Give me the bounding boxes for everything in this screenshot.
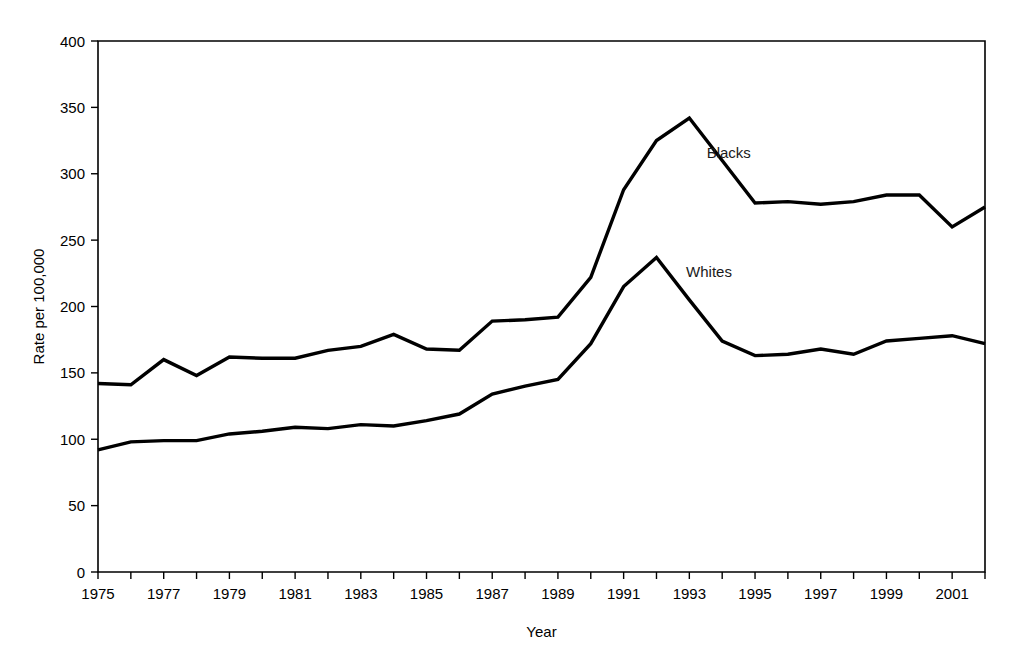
x-axis-ticks: 1975197719791981198319851987198919911993… xyxy=(81,572,985,602)
y-axis-ticks: 050100150200250300350400 xyxy=(60,33,98,581)
series-label-whites: Whites xyxy=(686,263,732,280)
x-tick-label: 1975 xyxy=(81,585,114,602)
y-tick-label: 200 xyxy=(60,298,85,315)
x-tick-label: 1977 xyxy=(147,585,180,602)
y-tick-label: 300 xyxy=(60,165,85,182)
x-tick-label: 1985 xyxy=(410,585,443,602)
y-tick-label: 250 xyxy=(60,232,85,249)
series-annotations: BlacksWhites xyxy=(686,144,751,280)
y-tick-label: 150 xyxy=(60,364,85,381)
series-label-blacks: Blacks xyxy=(707,144,751,161)
y-tick-label: 100 xyxy=(60,431,85,448)
plot-frame xyxy=(98,41,985,572)
axis-frame xyxy=(98,41,985,572)
x-tick-label: 1981 xyxy=(278,585,311,602)
x-tick-label: 1997 xyxy=(804,585,837,602)
x-tick-label: 1983 xyxy=(344,585,377,602)
x-tick-label: 1987 xyxy=(476,585,509,602)
y-tick-label: 50 xyxy=(68,497,85,514)
x-tick-label: 1999 xyxy=(870,585,903,602)
x-tick-label: 1991 xyxy=(607,585,640,602)
x-tick-label: 1989 xyxy=(541,585,574,602)
y-tick-label: 350 xyxy=(60,99,85,116)
y-axis-title: Rate per 100,000 xyxy=(30,249,47,365)
y-tick-label: 0 xyxy=(77,564,85,581)
x-axis-title: Year xyxy=(526,623,556,640)
x-tick-label: 1993 xyxy=(673,585,706,602)
y-tick-label: 400 xyxy=(60,33,85,50)
chart-container: 050100150200250300350400 197519771979198… xyxy=(0,0,1018,667)
x-tick-label: 2001 xyxy=(935,585,968,602)
x-tick-label: 1979 xyxy=(213,585,246,602)
x-tick-label: 1995 xyxy=(738,585,771,602)
series-line-blacks xyxy=(98,118,985,385)
line-chart: 050100150200250300350400 197519771979198… xyxy=(0,0,1018,667)
data-series-group xyxy=(98,118,985,450)
series-line-whites xyxy=(98,257,985,449)
